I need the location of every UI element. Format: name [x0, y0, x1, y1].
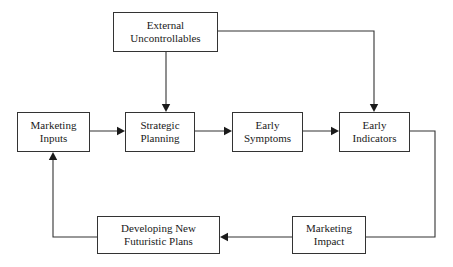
node-label: Strategic Planning [138, 119, 181, 145]
node-early-symptoms[interactable]: Early Symptoms [232, 112, 303, 152]
arrowhead-external-to-early-indicators [370, 104, 378, 112]
arrowhead-marketing-impact-to-developing-plans [220, 233, 228, 241]
flowchart-diagram: External Uncontrollables Marketing Input… [0, 0, 453, 267]
arrowhead-developing-plans-to-marketing-inputs [49, 152, 57, 160]
node-label: Developing New Futuristic Plans [119, 222, 198, 248]
node-label: Marketing Impact [304, 222, 354, 248]
node-label: Early Indicators [351, 119, 399, 145]
connector-developing-plans-to-marketing-inputs [53, 154, 97, 237]
node-early-indicators[interactable]: Early Indicators [339, 112, 410, 152]
arrowhead-external-to-strategic-planning [162, 104, 170, 112]
node-marketing-impact[interactable]: Marketing Impact [292, 216, 366, 254]
node-label: Marketing Inputs [29, 119, 79, 145]
node-strategic-planning[interactable]: Strategic Planning [125, 112, 195, 152]
arrowhead-strategic-planning-to-early-symptoms [224, 127, 232, 135]
node-marketing-inputs[interactable]: Marketing Inputs [17, 112, 90, 152]
node-external-uncontrollables[interactable]: External Uncontrollables [113, 12, 218, 52]
node-label: Early Symptoms [242, 119, 293, 145]
node-developing-new-futuristic-plans[interactable]: Developing New Futuristic Plans [97, 216, 220, 254]
arrowhead-marketing-inputs-to-strategic-planning [117, 127, 125, 135]
connector-external-to-early-indicators [218, 31, 374, 110]
node-label: External Uncontrollables [128, 19, 202, 45]
arrowhead-early-symptoms-to-early-indicators [331, 127, 339, 135]
